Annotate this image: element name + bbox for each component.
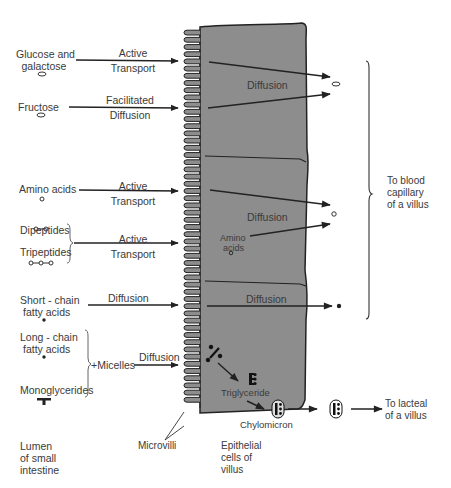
fructose-mechanism: Facilitated Diffusion	[92, 94, 168, 121]
blood-label-line2: capillary	[387, 187, 429, 199]
cell-diffusion-label-3: Diffusion	[246, 293, 287, 305]
microvilli-label: Microvilli	[138, 440, 176, 452]
short-chain-symbol	[42, 318, 45, 321]
dipeptides-label: Dipeptides	[20, 224, 70, 236]
lumen-label: Lumen of small intestine	[20, 440, 59, 476]
fructose-symbol	[37, 113, 45, 117]
blood-capillary-label: To blood capillary of a villus	[387, 175, 429, 211]
peptides-mechanism-line1: Active	[98, 233, 168, 245]
blood-label-line3: of a villus	[387, 199, 429, 211]
short-chain-label-line1: Short - chain	[20, 294, 80, 306]
amino-mechanism: Active Transport	[98, 180, 168, 207]
chylomicron-symbol-exit	[330, 400, 342, 418]
long-chain-symbol	[42, 355, 45, 358]
cell-amino-label: Amino acids	[220, 233, 246, 253]
glucose-symbol	[38, 72, 46, 76]
epithelial-label-line3: villus	[221, 464, 262, 476]
fatty-acid-blood-symbol	[337, 304, 341, 308]
epithelial-label-line2: cells of	[221, 452, 262, 464]
tripeptide-symbol	[29, 261, 53, 265]
blood-capillary-brace	[366, 61, 372, 319]
short-chain-mechanism: Diffusion	[108, 292, 149, 304]
amino-acids-label: Amino acids	[19, 183, 76, 195]
blood-label-line1: To blood	[387, 175, 429, 187]
short-chain-label-line2: fatty acids	[20, 306, 80, 318]
lumen-label-line3: intestine	[20, 464, 59, 476]
microvilli-path	[184, 29, 200, 408]
cell-amino-label-line2: acids	[220, 243, 246, 253]
chylomicron-label: Chylomicron	[240, 419, 293, 431]
glucose-mechanism: Active Transport	[98, 47, 168, 74]
epithelial-label-line1: Epithelial	[221, 440, 262, 452]
glucose-label: Glucose and galactose	[16, 48, 72, 72]
glucose-mechanism-line1: Active	[98, 47, 168, 59]
cell-amino-label-line1: Amino	[220, 233, 246, 243]
amino-mechanism-line1: Active	[98, 180, 168, 192]
glucose-label-line2: galactose	[16, 60, 72, 72]
long-chain-label: Long - chain fatty acids	[20, 331, 78, 355]
fructose-label: Fructose	[18, 101, 59, 113]
monoglyceride-symbol	[37, 398, 51, 405]
microvilli-pointer-2	[165, 426, 184, 440]
glucose-mechanism-line2: Transport	[98, 62, 168, 74]
triglyceride-symbol	[249, 373, 257, 385]
lumen-label-line2: of small	[20, 452, 59, 464]
short-chain-label: Short - chain fatty acids	[20, 294, 80, 318]
microvilli-pointer-1	[165, 412, 184, 440]
long-chain-label-line1: Long - chain	[20, 331, 78, 343]
long-chain-label-line2: fatty acids	[20, 343, 78, 355]
amino-acid-symbol	[40, 197, 44, 201]
peptides-mechanism-line2: Transport	[98, 248, 168, 260]
lacteal-label-line1: To lacteal	[385, 398, 427, 410]
glucose-blood-symbol	[332, 82, 340, 86]
cell-diffusion-label-1: Diffusion	[247, 79, 288, 91]
lumen-label-line1: Lumen	[20, 440, 59, 452]
amino-mechanism-line2: Transport	[98, 195, 168, 207]
micelles-mechanism: Diffusion	[139, 351, 180, 363]
triglyceride-label: Triglyceride	[221, 387, 270, 399]
fructose-mechanism-line1: Facilitated	[92, 94, 168, 106]
fructose-mechanism-line2: Diffusion	[92, 109, 168, 121]
glucose-label-line1: Glucose and	[16, 48, 72, 60]
microvilli-border	[184, 29, 200, 408]
lacteal-label-line2: of a villus	[385, 410, 427, 422]
peptides-mechanism: Active Transport	[98, 233, 168, 260]
lacteal-label: To lacteal of a villus	[385, 398, 427, 422]
micelles-label: +Micelles	[91, 359, 135, 371]
cell-diffusion-label-2: Diffusion	[247, 211, 288, 223]
chylomicron-symbol-cell	[272, 400, 284, 418]
amino-acid-blood-symbol	[332, 212, 336, 216]
monoglycerides-label: Monoglycerides	[20, 384, 94, 396]
tripeptides-label: Tripeptides	[20, 246, 72, 258]
epithelial-label: Epithelial cells of villus	[221, 440, 262, 476]
